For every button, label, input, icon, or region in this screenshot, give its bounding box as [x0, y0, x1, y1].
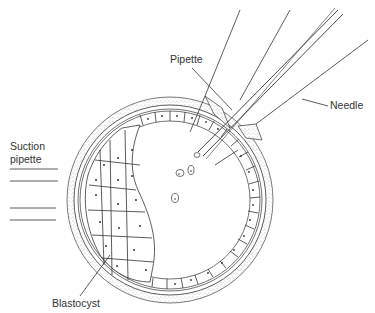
label-blastocyst: Blastocyst	[52, 297, 100, 309]
label-pipette: Pipette	[170, 53, 203, 65]
label-suction-pipette-line1: Suction	[10, 140, 45, 152]
label-suction-pipette-line2: pipette	[10, 153, 42, 165]
blastocyst-diagram: Pipette Needle Suction pipette Blastocys…	[0, 0, 375, 313]
suction-pipette	[10, 169, 58, 220]
label-needle: Needle	[330, 99, 363, 111]
